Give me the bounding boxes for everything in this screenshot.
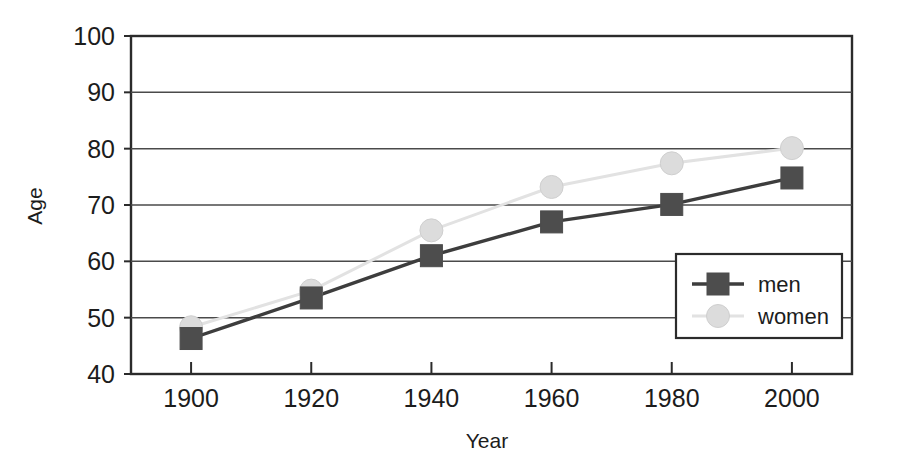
x-axis-tick-label: 1960 (524, 384, 580, 412)
y-axis-tick-label: 80 (87, 135, 115, 163)
legend-swatch-women (707, 305, 730, 328)
chart-container: 405060708090100 190019201940196019802000… (0, 0, 898, 475)
y-axis-title: Age (23, 187, 46, 224)
y-axis-tick-label: 40 (87, 360, 115, 388)
x-axis-tick-label: 1900 (163, 384, 219, 412)
data-point-women (780, 137, 803, 160)
data-point-men (180, 328, 202, 350)
legend-label-men: men (758, 272, 801, 297)
data-point-women (540, 175, 563, 198)
y-axis-tick-label: 60 (87, 247, 115, 275)
line-chart: 405060708090100 190019201940196019802000… (0, 0, 898, 475)
y-axis-tick-label: 50 (87, 304, 115, 332)
data-point-men (781, 167, 803, 189)
x-axis-title: Year (466, 429, 508, 452)
data-point-men (300, 287, 322, 309)
data-point-men (661, 193, 683, 215)
data-point-men (420, 245, 442, 267)
y-axis-tick-label: 90 (87, 78, 115, 106)
data-point-women (660, 152, 683, 175)
x-axis-tick-label: 1980 (644, 384, 700, 412)
legend-label-women: women (757, 304, 829, 329)
data-point-women (420, 219, 443, 242)
x-axis-tick-label: 2000 (764, 384, 820, 412)
y-axis-tick-label: 100 (73, 22, 115, 50)
data-point-men (541, 211, 563, 233)
y-axis-tick-label: 70 (87, 191, 115, 219)
chart-legend: menwomen (676, 254, 842, 338)
x-axis-tick-label: 1920 (283, 384, 339, 412)
x-axis-tick-label: 1940 (404, 384, 460, 412)
legend-swatch-men (707, 273, 729, 295)
